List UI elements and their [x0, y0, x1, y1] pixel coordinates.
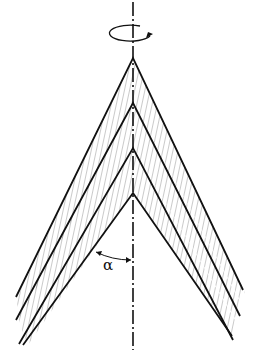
rotation-arrow-icon	[109, 25, 153, 41]
hatched-layers	[16, 58, 245, 345]
cone-diagram	[0, 0, 254, 356]
angle-marker	[96, 251, 131, 263]
angle-alpha-label: α	[103, 256, 113, 274]
